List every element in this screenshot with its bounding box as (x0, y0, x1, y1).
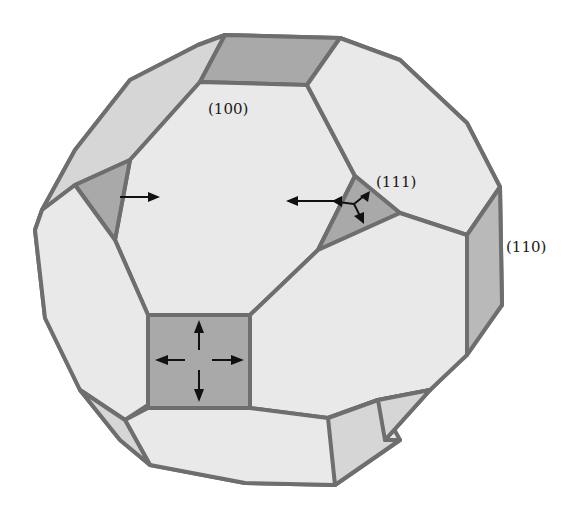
face-111-bottom-right-tri (378, 390, 430, 440)
label-100: (100) (208, 100, 248, 118)
label-110: (110) (506, 238, 546, 256)
crystal-diagram: (100) (111) (110) (0, 0, 576, 508)
label-111: (111) (376, 173, 416, 191)
